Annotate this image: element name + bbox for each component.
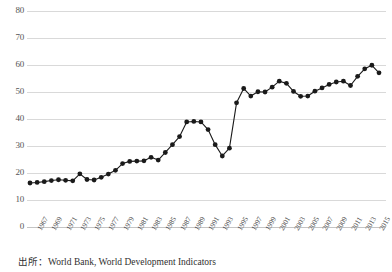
data-point <box>206 127 211 132</box>
data-point <box>263 90 268 95</box>
data-point <box>334 80 339 85</box>
data-point <box>63 178 68 183</box>
data-point <box>220 154 225 159</box>
data-point <box>241 86 246 91</box>
y-tick-label: 70 <box>0 33 24 42</box>
data-point <box>256 89 261 94</box>
data-point <box>199 120 204 125</box>
y-tick-label: 0 <box>0 222 24 231</box>
data-point <box>369 63 374 68</box>
chart-container: 80706050403020100 1967196919711973197519… <box>0 0 392 272</box>
data-point <box>35 180 40 185</box>
data-point <box>270 85 275 90</box>
data-point <box>77 171 82 176</box>
y-tick-label: 40 <box>0 114 24 123</box>
data-point <box>355 74 360 79</box>
y-tick-label: 80 <box>0 6 24 15</box>
data-point <box>106 172 111 177</box>
data-point <box>120 161 125 166</box>
data-point <box>127 159 132 164</box>
y-tick-label: 30 <box>0 141 24 150</box>
data-point <box>85 177 90 182</box>
line-series <box>27 11 386 227</box>
data-point <box>320 86 325 91</box>
series-line <box>30 65 379 183</box>
data-point <box>42 179 47 184</box>
data-point <box>163 150 168 155</box>
source-note: 出所：World Bank, World Development Indicat… <box>18 256 216 268</box>
data-point <box>156 158 161 163</box>
y-tick-label: 10 <box>0 195 24 204</box>
y-tick-label: 20 <box>0 168 24 177</box>
data-point <box>298 94 303 99</box>
data-point <box>305 94 310 99</box>
data-point <box>28 181 33 186</box>
data-point <box>234 100 239 105</box>
data-point <box>291 89 296 94</box>
data-point <box>362 66 367 71</box>
plot-area <box>27 11 386 227</box>
data-point <box>49 178 54 183</box>
data-point <box>348 83 353 88</box>
x-axis-ticks: 1967196919711973197519771979198119831985… <box>27 228 386 258</box>
data-point <box>99 175 104 180</box>
data-point <box>56 177 61 182</box>
data-point <box>191 119 196 124</box>
y-tick-label: 60 <box>0 60 24 69</box>
data-point <box>184 120 189 125</box>
data-point <box>312 89 317 94</box>
data-point <box>248 94 253 99</box>
data-point <box>70 178 75 183</box>
data-point <box>92 178 97 183</box>
data-point <box>341 79 346 84</box>
data-point <box>327 82 332 87</box>
data-point <box>177 134 182 139</box>
data-point <box>213 142 218 147</box>
data-point <box>113 168 118 173</box>
data-point <box>284 81 289 86</box>
data-point <box>227 146 232 151</box>
data-point <box>142 158 147 163</box>
y-tick-label: 50 <box>0 87 24 96</box>
data-point <box>149 155 154 160</box>
data-point <box>377 70 382 75</box>
data-point <box>134 159 139 164</box>
data-point <box>170 142 175 147</box>
data-point <box>277 79 282 84</box>
